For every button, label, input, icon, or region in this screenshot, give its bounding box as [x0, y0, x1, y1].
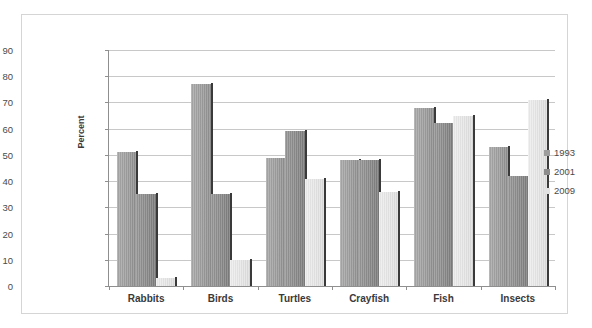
bar[interactable] — [414, 108, 434, 286]
bar-slot — [453, 50, 473, 286]
legend-label: 1993 — [554, 147, 575, 158]
x-axis-label: Birds — [208, 293, 234, 304]
bar-slot — [230, 50, 250, 286]
bar-slot — [359, 50, 379, 286]
bar[interactable] — [379, 192, 399, 286]
legend-label: 2009 — [554, 185, 575, 196]
y-tick-label: 10 — [0, 254, 13, 265]
bar[interactable] — [211, 194, 231, 286]
x-axis-label: Insects — [501, 293, 535, 304]
legend-item[interactable]: 1993 — [544, 143, 575, 162]
bar-slot — [191, 50, 211, 286]
legend-label: 2001 — [554, 166, 575, 177]
bar-slot — [414, 50, 434, 286]
bar[interactable] — [305, 179, 325, 287]
bar-group — [332, 50, 406, 286]
chart-legend: 199320012009 — [544, 143, 575, 200]
y-tick-label: 50 — [0, 149, 13, 160]
bar-slot — [117, 50, 137, 286]
bar-slot — [489, 50, 509, 286]
legend-swatch-icon — [544, 169, 550, 175]
bar-slot — [136, 50, 156, 286]
bar-slot — [156, 50, 176, 286]
bar[interactable] — [489, 147, 509, 286]
y-tick-label: 40 — [0, 176, 13, 187]
bar-slot — [508, 50, 528, 286]
bar[interactable] — [359, 160, 379, 286]
x-tick-mark — [481, 286, 482, 290]
x-tick-mark — [183, 286, 184, 290]
bar[interactable] — [117, 152, 137, 286]
y-tick-label: 90 — [0, 45, 13, 56]
bar[interactable] — [285, 131, 305, 286]
bar-group — [406, 50, 480, 286]
bar[interactable] — [191, 84, 211, 286]
x-axis-label: Rabbits — [128, 293, 165, 304]
y-tick-label: 0 — [0, 281, 13, 292]
bar-slot — [285, 50, 305, 286]
bar-slot — [379, 50, 399, 286]
bar-slot — [340, 50, 360, 286]
y-axis-title: Percent — [76, 92, 86, 172]
legend-item[interactable]: 2009 — [544, 181, 575, 200]
bar[interactable] — [453, 116, 473, 286]
y-tick-label: 80 — [0, 71, 13, 82]
bar-slot — [266, 50, 286, 286]
bar-slot — [211, 50, 231, 286]
bar[interactable] — [508, 176, 528, 286]
bar-group — [258, 50, 332, 286]
x-tick-mark — [406, 286, 407, 290]
y-tick-label: 70 — [0, 97, 13, 108]
x-axis-label: Turtles — [279, 293, 312, 304]
bar[interactable] — [434, 123, 454, 286]
bar[interactable] — [266, 158, 286, 286]
bar-group — [183, 50, 257, 286]
bar[interactable] — [136, 194, 156, 286]
legend-item[interactable]: 2001 — [544, 162, 575, 181]
chart-container: Percent 0102030405060708090 RabbitsBirds… — [21, 14, 568, 314]
y-tick-label: 30 — [0, 202, 13, 213]
bar-slot — [434, 50, 454, 286]
bar[interactable] — [156, 278, 176, 286]
bar-slot — [305, 50, 325, 286]
x-tick-mark — [258, 286, 259, 290]
plot-area: 0102030405060708090 — [109, 50, 555, 286]
x-tick-mark — [332, 286, 333, 290]
legend-swatch-icon — [544, 188, 550, 194]
y-tick-label: 20 — [0, 228, 13, 239]
bar[interactable] — [340, 160, 360, 286]
x-tick-mark — [555, 286, 556, 290]
y-tick-label: 60 — [0, 123, 13, 134]
legend-swatch-icon — [544, 150, 550, 156]
x-axis-label: Crayfish — [349, 293, 389, 304]
x-tick-mark — [109, 286, 110, 290]
x-axis-label: Fish — [433, 293, 454, 304]
bar[interactable] — [230, 260, 250, 286]
bar-group — [109, 50, 183, 286]
